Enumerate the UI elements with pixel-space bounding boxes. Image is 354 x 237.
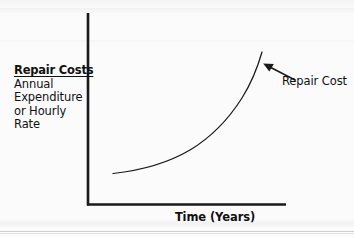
figure-canvas: Repair Costs Annual Expenditure or Hourl… bbox=[0, 0, 354, 237]
curve-annotation-label: Repair Cost bbox=[282, 74, 347, 88]
y-axis-label-block: Repair Costs Annual Expenditure or Hourl… bbox=[14, 64, 86, 132]
y-axis-label-line-2: Expenditure bbox=[14, 91, 86, 105]
repair-cost-curve bbox=[113, 52, 262, 174]
y-axis-label-title: Repair Costs bbox=[14, 64, 86, 78]
y-axis-label-line-3: or Hourly bbox=[14, 105, 86, 119]
y-axis-label-line-1: Annual bbox=[14, 78, 86, 92]
x-axis-label: Time (Years) bbox=[0, 210, 354, 224]
y-axis-label-line-4: Rate bbox=[14, 118, 86, 132]
x-axis-label-text: Time (Years) bbox=[175, 210, 255, 224]
